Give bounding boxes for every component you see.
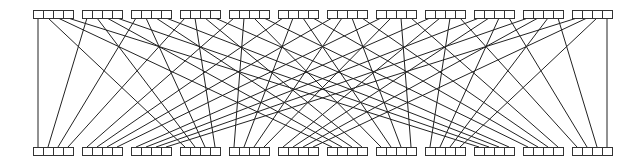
- bottom-port-cell: [544, 148, 554, 156]
- bottom-port-cell: [593, 148, 603, 156]
- top-port-cell: [583, 11, 593, 19]
- bottom-port-cell: [456, 148, 466, 156]
- top-group-2: [132, 11, 172, 19]
- top-port-cell: [162, 11, 172, 19]
- bottom-port-cell: [103, 148, 113, 156]
- bottom-port-cell: [279, 148, 289, 156]
- bottom-port-cell: [377, 148, 387, 156]
- bottom-port-cell: [603, 148, 613, 156]
- bottom-port-cell: [142, 148, 152, 156]
- top-port-cell: [407, 11, 417, 19]
- top-port-cell: [573, 11, 583, 19]
- bottom-port-cell: [397, 148, 407, 156]
- top-port-cell: [83, 11, 93, 19]
- top-port-cell: [64, 11, 74, 19]
- bottom-group-4: [230, 148, 270, 156]
- bottom-port-cell: [230, 148, 240, 156]
- top-port-cell: [142, 11, 152, 19]
- top-port-cell: [328, 11, 338, 19]
- top-port-cell: [485, 11, 495, 19]
- bottom-group-10: [524, 148, 564, 156]
- wire: [234, 18, 244, 147]
- top-group-5: [279, 11, 319, 19]
- top-group-3: [181, 11, 221, 19]
- top-group-10: [524, 11, 564, 19]
- interconnect-wires: [38, 18, 607, 147]
- wire: [460, 18, 597, 147]
- top-port-cell: [554, 11, 564, 19]
- top-port-cell: [524, 11, 534, 19]
- bottom-port-cell: [44, 148, 54, 156]
- top-port-cell: [397, 11, 407, 19]
- bottom-port-cell: [436, 148, 446, 156]
- bottom-port-cell: [152, 148, 162, 156]
- bottom-port-cell: [132, 148, 142, 156]
- wire: [68, 18, 185, 147]
- bottom-port-cell: [446, 148, 456, 156]
- top-port-cell: [279, 11, 289, 19]
- top-port-cell: [475, 11, 485, 19]
- bottom-group-3: [181, 148, 221, 156]
- top-port-cell: [54, 11, 64, 19]
- top-port-cell: [446, 11, 456, 19]
- bottom-group-7: [377, 148, 417, 156]
- bottom-port-cell: [181, 148, 191, 156]
- top-port-cell: [436, 11, 446, 19]
- top-group-7: [377, 11, 417, 19]
- bottom-port-cell: [505, 148, 515, 156]
- bottom-port-cell: [113, 148, 123, 156]
- bottom-port-cell: [583, 148, 593, 156]
- top-port-cell: [191, 11, 201, 19]
- top-port-cell: [103, 11, 113, 19]
- bottom-port-cell: [309, 148, 319, 156]
- top-port-cell: [34, 11, 44, 19]
- top-port-cell: [348, 11, 358, 19]
- bottom-port-cell: [162, 148, 172, 156]
- bottom-group-6: [328, 148, 368, 156]
- bottom-port-cell: [201, 148, 211, 156]
- bottom-port-cell: [34, 148, 44, 156]
- top-port-cell: [495, 11, 505, 19]
- top-group-1: [83, 11, 123, 19]
- wire: [303, 18, 538, 147]
- wire: [352, 18, 401, 147]
- bottom-group-11: [573, 148, 613, 156]
- bottom-group-2: [132, 148, 172, 156]
- bottom-port-cell: [240, 148, 250, 156]
- bottom-port-cell: [299, 148, 309, 156]
- top-port-cell: [181, 11, 191, 19]
- bottom-port-cell: [211, 148, 221, 156]
- top-port-cell: [309, 11, 319, 19]
- bottom-port-cell: [191, 148, 201, 156]
- top-port-cell: [387, 11, 397, 19]
- wire: [401, 18, 411, 147]
- wire: [293, 18, 489, 147]
- top-port-cell: [299, 11, 309, 19]
- top-port-cell: [505, 11, 515, 19]
- top-group-11: [573, 11, 613, 19]
- top-port-row: [34, 11, 613, 19]
- bottom-port-cell: [573, 148, 583, 156]
- bottom-port-cell: [554, 148, 564, 156]
- bottom-port-row: [34, 148, 613, 156]
- top-port-cell: [132, 11, 142, 19]
- top-port-cell: [201, 11, 211, 19]
- top-group-8: [426, 11, 466, 19]
- bottom-port-cell: [475, 148, 485, 156]
- bottom-port-cell: [93, 148, 103, 156]
- bottom-port-cell: [387, 148, 397, 156]
- bottom-port-cell: [289, 148, 299, 156]
- bottom-port-cell: [64, 148, 74, 156]
- bottom-group-5: [279, 148, 319, 156]
- top-port-cell: [338, 11, 348, 19]
- bottom-port-cell: [426, 148, 436, 156]
- wire: [450, 18, 548, 147]
- top-group-6: [328, 11, 368, 19]
- bottom-group-8: [426, 148, 466, 156]
- bottom-port-cell: [338, 148, 348, 156]
- top-port-cell: [358, 11, 368, 19]
- top-port-cell: [240, 11, 250, 19]
- top-port-cell: [534, 11, 544, 19]
- wire: [244, 18, 293, 147]
- bottom-port-cell: [495, 148, 505, 156]
